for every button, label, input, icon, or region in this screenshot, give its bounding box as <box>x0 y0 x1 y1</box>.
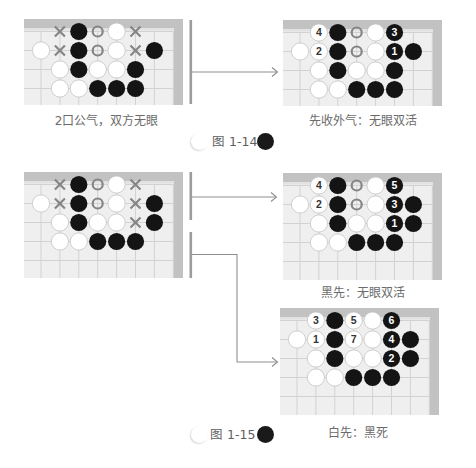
white-stone <box>345 350 362 367</box>
white-stone <box>367 62 384 79</box>
white-stone: 3 <box>307 312 324 329</box>
figure-label-1-14: 图 1-14 <box>212 133 257 151</box>
board-edge-right <box>430 308 439 415</box>
white-stone <box>364 312 381 329</box>
black-stone <box>402 350 419 367</box>
white-stone <box>307 350 324 367</box>
move-number-label: 4 <box>316 26 322 38</box>
board-edge-right <box>433 173 442 280</box>
black-stone <box>329 177 346 194</box>
black-stone <box>386 234 403 251</box>
black-stone <box>345 369 362 386</box>
move-number-label: 7 <box>351 333 357 345</box>
black-stone <box>146 195 163 212</box>
black-stone-icon <box>257 426 274 443</box>
black-stone <box>70 195 87 212</box>
black-stone: 2 <box>383 350 400 367</box>
black-stone <box>127 233 144 250</box>
white-stone <box>108 23 125 40</box>
move-number-label: 6 <box>389 314 395 326</box>
move-number-label: 2 <box>316 198 322 210</box>
move-number-label: 3 <box>392 198 398 210</box>
arrow-head-icon <box>272 358 278 367</box>
white-stone <box>51 233 68 250</box>
white-stone <box>348 62 365 79</box>
white-stone <box>70 80 87 97</box>
board-fig-1-14-solution: 4321 <box>283 20 442 106</box>
arrow-to-black-first <box>192 193 277 202</box>
black-stone: 4 <box>383 331 400 348</box>
white-stone: 1 <box>307 331 324 348</box>
black-stone <box>402 331 419 348</box>
move-number-label: 1 <box>313 333 319 345</box>
move-number-label: 3 <box>392 26 398 38</box>
board-edge-right <box>174 172 183 278</box>
white-stone <box>108 195 125 212</box>
arrow-head-icon <box>272 68 278 77</box>
board-fig-1-15-problem <box>24 172 183 278</box>
white-stone <box>326 369 343 386</box>
white-stone <box>367 177 384 194</box>
separator-bar-fig-1-15-lower <box>190 232 193 278</box>
black-stone <box>326 350 343 367</box>
white-stone <box>108 214 125 231</box>
board-edge-top <box>283 20 442 29</box>
black-stone <box>326 312 343 329</box>
separator-bar-fig-1-14 <box>190 20 193 104</box>
move-number-label: 4 <box>389 333 395 345</box>
black-stone <box>326 331 343 348</box>
black-stone: 6 <box>383 312 400 329</box>
white-stone <box>364 350 381 367</box>
black-stone <box>70 214 87 231</box>
white-stone <box>310 81 327 98</box>
white-stone <box>51 61 68 78</box>
board-edge-right <box>174 19 183 105</box>
black-stone <box>348 81 365 98</box>
black-stone: 5 <box>386 177 403 194</box>
board-edge-top <box>24 19 183 28</box>
black-stone <box>70 23 87 40</box>
board-edge-top <box>24 172 183 181</box>
white-stone <box>329 81 346 98</box>
white-stone <box>310 62 327 79</box>
white-stone <box>310 215 327 232</box>
arrow-to-white-first <box>192 255 278 367</box>
white-stone <box>291 196 308 213</box>
caption-fig-1-15-white-first: 白先：黑死 <box>278 425 437 441</box>
white-stone <box>329 234 346 251</box>
move-number-label: 4 <box>316 179 322 191</box>
black-stone <box>146 214 163 231</box>
black-stone: 3 <box>386 24 403 41</box>
black-stone <box>127 61 144 78</box>
move-number-label: 2 <box>389 352 395 364</box>
white-stone: 2 <box>310 196 327 213</box>
board-edge-inner <box>283 182 432 185</box>
white-stone <box>108 176 125 193</box>
arrow-fig-1-14 <box>192 68 278 77</box>
black-stone <box>70 42 87 59</box>
caption-fig-1-14-solution: 先收外气：无眼双活 <box>283 113 442 129</box>
black-stone <box>405 43 422 60</box>
black-stone <box>329 196 346 213</box>
black-stone <box>348 234 365 251</box>
black-stone <box>329 215 346 232</box>
black-stone: 1 <box>386 215 403 232</box>
board-edge-inner <box>283 29 432 32</box>
figure-label-1-15: 图 1-15 <box>210 426 255 444</box>
white-stone <box>108 61 125 78</box>
white-stone <box>367 43 384 60</box>
white-stone-icon <box>191 426 208 443</box>
white-stone: 5 <box>345 312 362 329</box>
separator-bar-fig-1-15-upper <box>190 172 193 220</box>
white-stone <box>307 369 324 386</box>
board-fig-1-15-white-first: 3561742 <box>280 308 439 415</box>
white-stone <box>108 42 125 59</box>
arrow-line <box>192 255 277 363</box>
white-stone <box>288 331 305 348</box>
arrow-head-icon <box>271 193 277 202</box>
board-edge-inner <box>24 28 173 31</box>
white-stone: 7 <box>345 331 362 348</box>
black-stone <box>70 176 87 193</box>
black-stone <box>329 43 346 60</box>
white-stone <box>32 195 49 212</box>
